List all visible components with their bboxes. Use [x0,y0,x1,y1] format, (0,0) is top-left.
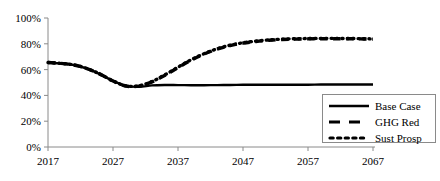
legend-item-base-case: Base Case [323,98,437,114]
y-axis-tick-label: 0% [0,142,41,153]
chart-container: 0%20%40%60%80%100% 201720272037204720572… [0,0,440,181]
y-axis-tick-label: 100% [0,13,41,24]
legend-label-ghg-red: GHG Red [375,117,419,128]
legend-swatch-solid-icon [328,99,370,113]
y-axis-tick-label: 60% [0,64,41,75]
legend-label-sust-prosp: Sust Prosp [375,133,422,144]
series-line-base-case [48,63,373,87]
x-axis-tick-label: 2017 [37,156,59,167]
x-axis-tick-label: 2027 [102,156,124,167]
x-axis-tick-label: 2067 [362,156,384,167]
chart-series-group [48,38,373,87]
x-axis-tick-label: 2047 [232,156,254,167]
x-axis-tick-label: 2057 [297,156,319,167]
series-line-ghg-red [48,39,373,87]
series-line-sust-prosp [48,38,373,86]
y-axis-tick-label: 40% [0,90,41,101]
y-axis-tick-label: 20% [0,116,41,127]
x-axis-tick-label: 2037 [167,156,189,167]
chart-legend: Base Case GHG Red Sust Prosp [322,94,436,143]
legend-item-ghg-red: GHG Red [323,114,437,130]
legend-swatch-dashed-icon [328,115,370,129]
legend-label-base-case: Base Case [375,101,421,112]
legend-swatch-dotted-icon [328,131,370,145]
chart-plot-area [0,0,440,181]
legend-item-sust-prosp: Sust Prosp [323,130,437,146]
y-axis-tick-label: 80% [0,38,41,49]
